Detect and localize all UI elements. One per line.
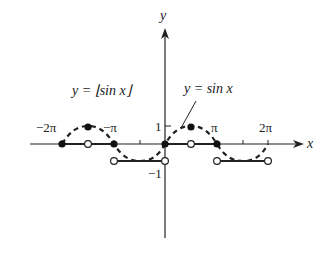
y-tick-label-neg-1: −1 xyxy=(148,166,162,181)
x-tick-label-2pi: 2π xyxy=(259,120,273,135)
y-tick-label-1: 1 xyxy=(155,119,162,134)
floor-sin-label: y = ⌊sin x⌋ xyxy=(70,83,133,98)
y-axis xyxy=(161,28,169,238)
sin-label-pointer xyxy=(181,101,196,128)
x-tick-label-pi: π xyxy=(211,120,218,135)
diagram-canvas: y x −2π −π π 2π 1 −1 y = ⌊sin x⌋ y = sin… xyxy=(0,0,327,253)
x-tick-label-neg-pi: −π xyxy=(103,120,117,135)
y-axis-label: y xyxy=(158,8,167,23)
x-axis-label: x xyxy=(306,136,314,151)
floor-sin-graph: y x −2π −π π 2π 1 −1 y = ⌊sin x⌋ y = sin… xyxy=(0,0,327,253)
x-tick-label-neg-2pi: −2π xyxy=(36,120,57,135)
sin-label: y = sin x xyxy=(182,81,233,96)
